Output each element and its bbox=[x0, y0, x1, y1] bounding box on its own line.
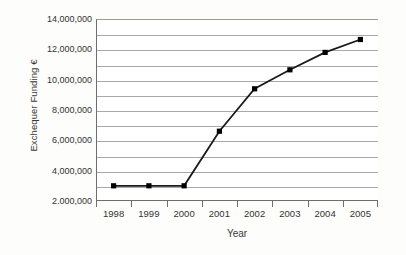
x-axis-tick-label: 2000 bbox=[164, 208, 204, 219]
gridline bbox=[97, 50, 378, 51]
gridline bbox=[97, 111, 378, 112]
x-axis-tick-label: 2004 bbox=[305, 208, 345, 219]
y-axis-tick-label: 12,000,000 bbox=[6, 44, 92, 54]
x-axis-tick-label: 2005 bbox=[340, 208, 380, 219]
x-axis-tick bbox=[377, 201, 378, 207]
x-axis-tick-label: 2003 bbox=[270, 208, 310, 219]
x-axis-title: Year bbox=[96, 228, 378, 239]
x-axis-tick-label: 1998 bbox=[94, 208, 134, 219]
gridline bbox=[97, 187, 378, 188]
x-axis-tick bbox=[272, 201, 273, 207]
gridline bbox=[97, 172, 378, 173]
y-axis-tick-label: 2.000,000 bbox=[6, 196, 92, 206]
y-axis-tick-label: 4,000,000 bbox=[6, 166, 92, 176]
y-axis-tick-label: 6,000,000 bbox=[6, 135, 92, 145]
gridline bbox=[97, 96, 378, 97]
x-axis-tick bbox=[96, 201, 97, 207]
chart-figure: Exchequer Funding € 14,000,00012,000,000… bbox=[0, 0, 406, 255]
gridline bbox=[97, 157, 378, 158]
x-axis-tick bbox=[167, 201, 168, 207]
gridline bbox=[97, 66, 378, 67]
y-axis-tick-label: 8,000,000 bbox=[6, 105, 92, 115]
x-axis-tick bbox=[202, 201, 203, 207]
gridline bbox=[97, 126, 378, 127]
gridline bbox=[97, 35, 378, 36]
y-axis-tick-label: 10,000,000 bbox=[6, 75, 92, 85]
gridline bbox=[97, 141, 378, 142]
x-axis-tick bbox=[343, 201, 344, 207]
x-axis-tick-label: 2002 bbox=[235, 208, 275, 219]
gridline bbox=[97, 81, 378, 82]
plot-area bbox=[96, 19, 378, 201]
x-axis-tick-label: 1999 bbox=[129, 208, 169, 219]
x-axis-tick-label: 2001 bbox=[199, 208, 239, 219]
x-axis-tick bbox=[308, 201, 309, 207]
x-axis-tick bbox=[131, 201, 132, 207]
y-axis-tick-label: 14,000,000 bbox=[6, 14, 92, 24]
x-axis-tick bbox=[237, 201, 238, 207]
